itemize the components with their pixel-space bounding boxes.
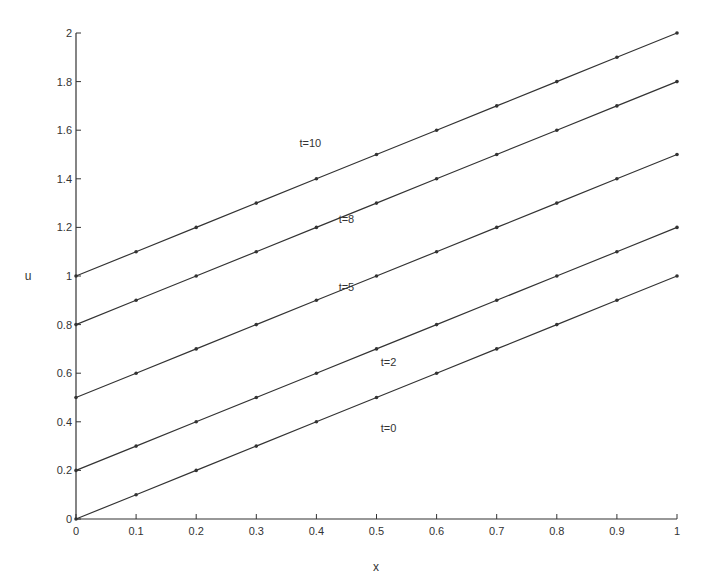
- y-axis-label: u: [25, 269, 32, 283]
- axes: 00.10.20.30.40.50.60.70.80.91 00.20.40.6…: [57, 27, 680, 537]
- x-tick-label: 0.3: [249, 525, 264, 537]
- y-tick-label: 0.2: [57, 464, 72, 476]
- data-point: [555, 128, 559, 132]
- x-tick-label: 1: [674, 525, 680, 537]
- data-point: [315, 299, 319, 303]
- data-point: [254, 250, 258, 254]
- data-point: [495, 153, 499, 157]
- data-point: [194, 274, 198, 278]
- y-tick-label: 2: [66, 27, 72, 39]
- x-tick-label: 0.2: [189, 525, 204, 537]
- data-point: [435, 177, 439, 181]
- series-labels: t=0t=2t=5t=8t=10: [300, 137, 397, 433]
- series-label: t=0: [381, 422, 397, 434]
- data-point: [675, 153, 679, 157]
- data-point: [315, 371, 319, 375]
- data-point: [495, 347, 499, 351]
- data-point: [615, 299, 619, 303]
- y-tick-label: 0.4: [57, 416, 72, 428]
- data-point: [134, 371, 138, 375]
- line-chart: 00.10.20.30.40.50.60.70.80.91 00.20.40.6…: [0, 0, 705, 585]
- data-point: [254, 201, 258, 205]
- data-point: [615, 177, 619, 181]
- y-ticks: 00.20.40.60.811.21.41.61.82: [57, 27, 81, 525]
- series-label: t=2: [381, 356, 397, 368]
- data-point: [495, 104, 499, 108]
- data-point: [435, 371, 439, 375]
- x-tick-label: 0.7: [489, 525, 504, 537]
- y-tick-label: 0.6: [57, 367, 72, 379]
- data-point: [375, 396, 379, 400]
- series-label: t=10: [300, 137, 322, 149]
- data-point: [134, 250, 138, 254]
- x-tick-label: 0.9: [609, 525, 624, 537]
- y-tick-label: 1.4: [57, 173, 72, 185]
- data-point: [495, 226, 499, 230]
- data-point: [134, 493, 138, 497]
- data-point: [254, 444, 258, 448]
- data-point: [555, 274, 559, 278]
- data-point: [675, 31, 679, 35]
- data-point: [555, 323, 559, 327]
- y-tick-label: 1.8: [57, 76, 72, 88]
- data-point: [375, 201, 379, 205]
- series-t-2: [74, 226, 679, 473]
- x-tick-label: 0.6: [429, 525, 444, 537]
- data-point: [555, 201, 559, 205]
- data-point: [675, 274, 679, 278]
- x-tick-label: 0: [73, 525, 79, 537]
- data-point: [435, 128, 439, 132]
- y-tick-label: 1.2: [57, 221, 72, 233]
- y-tick-label: 1.6: [57, 124, 72, 136]
- data-point: [194, 226, 198, 230]
- x-tick-label: 0.8: [549, 525, 564, 537]
- x-tick-label: 0.5: [369, 525, 384, 537]
- data-point: [315, 420, 319, 424]
- data-point: [675, 226, 679, 230]
- data-point: [375, 347, 379, 351]
- data-point: [134, 299, 138, 303]
- series-t-0: [74, 274, 679, 521]
- data-point: [495, 299, 499, 303]
- x-ticks: 00.10.20.30.40.50.60.70.80.91: [73, 514, 680, 537]
- data-point: [194, 347, 198, 351]
- data-point: [435, 323, 439, 327]
- data-point: [615, 104, 619, 108]
- data-point: [615, 56, 619, 60]
- series-label: t=8: [339, 213, 355, 225]
- data-point: [254, 323, 258, 327]
- series-t-8: [74, 80, 679, 327]
- data-point: [375, 274, 379, 278]
- y-tick-label: 1: [66, 270, 72, 282]
- y-tick-label: 0.8: [57, 319, 72, 331]
- data-point: [675, 80, 679, 84]
- series-group: [74, 31, 679, 521]
- x-axis-label: x: [373, 560, 379, 574]
- data-point: [555, 80, 559, 84]
- series-label: t=5: [339, 281, 355, 293]
- data-point: [435, 250, 439, 254]
- data-point: [315, 177, 319, 181]
- series-t-10: [74, 31, 679, 278]
- data-point: [315, 226, 319, 230]
- data-point: [194, 469, 198, 473]
- series-t-5: [74, 153, 679, 400]
- data-point: [254, 396, 258, 400]
- x-tick-label: 0.4: [309, 525, 324, 537]
- data-point: [194, 420, 198, 424]
- y-tick-label: 0: [66, 513, 72, 525]
- x-tick-label: 0.1: [128, 525, 143, 537]
- data-point: [134, 444, 138, 448]
- data-point: [375, 153, 379, 157]
- data-point: [615, 250, 619, 254]
